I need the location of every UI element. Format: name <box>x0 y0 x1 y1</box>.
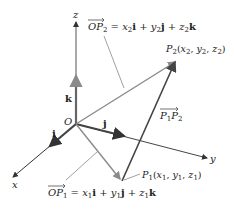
origin-label: O <box>64 116 72 127</box>
k-label: k <box>65 93 73 104</box>
op1-leader <box>66 152 97 180</box>
svg-text:P1P2: P1P2 <box>159 110 182 123</box>
p1p2-label: P1P2 <box>159 107 182 123</box>
p1-leader <box>124 174 140 180</box>
op2-leader <box>104 36 124 88</box>
y-axis-label: y <box>209 153 216 164</box>
svg-text:OP1 = x1i + y1j + z1k: OP1 = x1i + y1j + z1k <box>48 187 157 200</box>
j-label: j <box>102 118 107 129</box>
p1-label: P1(x1, y1, z1) <box>141 169 202 182</box>
z-axis-label: z <box>72 9 79 20</box>
i-label: i <box>52 128 56 139</box>
op2-label: OP2 = x2i + y2j + z2k <box>88 18 197 34</box>
p2-label: P2(x2, y2, z2) <box>165 43 226 56</box>
svg-text:OP2 = x2i + y2j + z2k: OP2 = x2i + y2j + z2k <box>88 21 197 34</box>
op1-label: OP1 = x1i + y1j + z1k <box>48 184 157 200</box>
x-axis-label: x <box>12 179 18 190</box>
diagram-canvas: z y x O k j i OP2 = x2i + y2j + z2k P2(x… <box>0 0 234 210</box>
j-unit-vector <box>76 124 124 136</box>
